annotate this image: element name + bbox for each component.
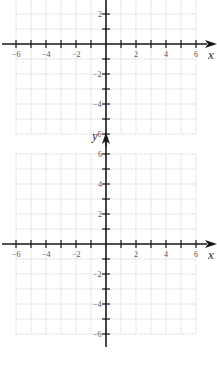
y-tick-label: −2 (93, 70, 102, 79)
x-tick-label: −6 (12, 250, 21, 259)
y-axis-label: y (90, 128, 98, 143)
coordinate-grids: −6−4−22462−2−4−6x−6−4−2246642−2−4−6xy (0, 0, 217, 385)
x-tick-label: 2 (134, 250, 138, 259)
y-tick-label: −4 (93, 100, 102, 109)
y-tick-label: 2 (98, 210, 102, 219)
y-tick-label: 2 (98, 10, 102, 19)
y-tick-label: −2 (93, 270, 102, 279)
x-tick-label: −4 (42, 50, 51, 59)
x-tick-label: 6 (194, 50, 198, 59)
x-tick-label: 6 (194, 250, 198, 259)
graph-bottom: −6−4−2246642−2−4−6xy (2, 128, 217, 347)
y-tick-label: 4 (98, 180, 102, 189)
x-axis-label: x (207, 247, 214, 262)
x-tick-label: −6 (12, 50, 21, 59)
x-tick-label: 2 (134, 50, 138, 59)
y-tick-label: −4 (93, 300, 102, 309)
x-tick-label: −4 (42, 250, 51, 259)
x-tick-label: −2 (72, 50, 81, 59)
graph-top: −6−4−22462−2−4−6x (2, 0, 217, 147)
y-tick-label: −6 (93, 330, 102, 339)
x-tick-label: 4 (164, 250, 168, 259)
x-axis-label: x (207, 47, 214, 62)
y-tick-label: 6 (98, 150, 102, 159)
x-tick-label: 4 (164, 50, 168, 59)
x-tick-label: −2 (72, 250, 81, 259)
